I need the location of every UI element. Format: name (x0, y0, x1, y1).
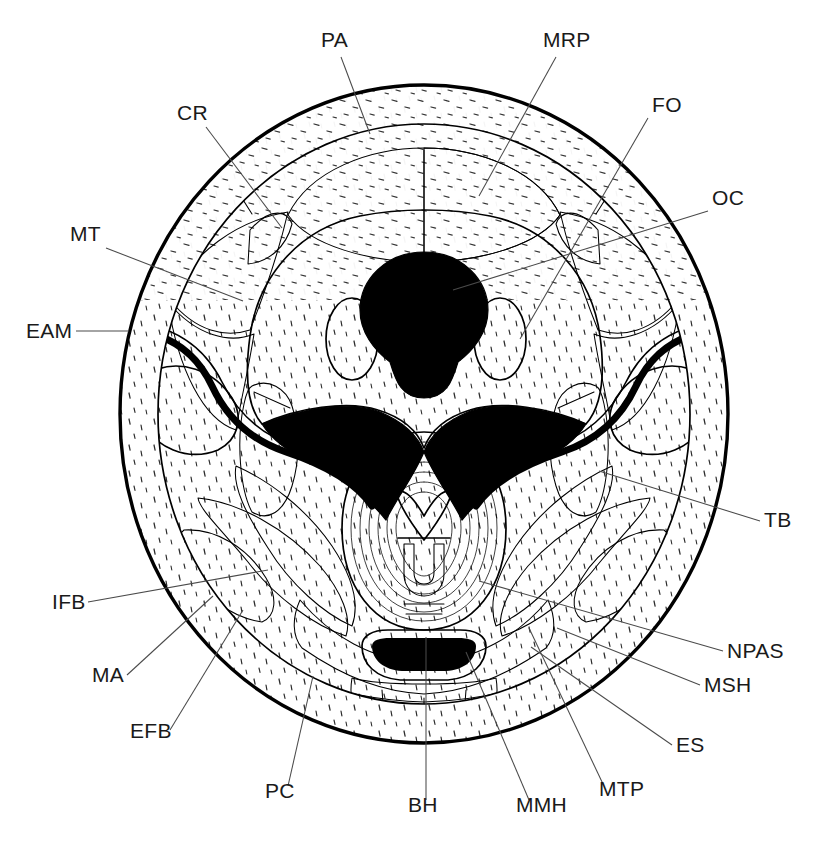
label-efb: EFB (130, 719, 172, 742)
label-fo: FO (652, 93, 682, 116)
hyoid-body (372, 638, 476, 671)
label-ifb: IFB (52, 590, 86, 613)
label-oc: OC (712, 186, 744, 209)
label-es: ES (676, 733, 705, 756)
label-pc: PC (265, 779, 295, 802)
label-cr: CR (177, 101, 208, 124)
label-mtp: MTP (599, 777, 644, 800)
label-tb: TB (764, 508, 791, 531)
label-mt: MT (70, 222, 101, 245)
anatomical-figure: PAMRPCRFOOCMTEAMTBIFBNPASMAMSHEFBESPCMTP… (0, 0, 816, 844)
label-mmh: MMH (516, 793, 567, 816)
label-mrp: MRP (543, 28, 591, 51)
label-bh: BH (408, 793, 438, 816)
label-npas: NPAS (727, 639, 784, 662)
cross-section-illustration: PAMRPCRFOOCMTEAMTBIFBNPASMAMSHEFBESPCMTP… (0, 0, 816, 844)
label-pa: PA (321, 28, 348, 51)
label-msh: MSH (704, 673, 752, 696)
label-eam: EAM (26, 319, 72, 342)
label-ma: MA (92, 663, 124, 686)
